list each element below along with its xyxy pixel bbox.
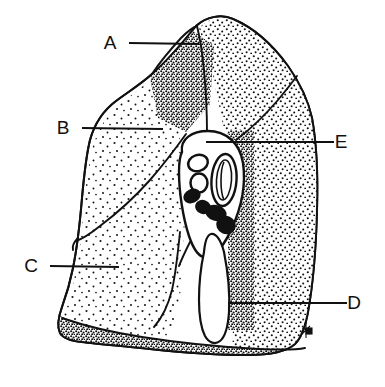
label-c: C	[24, 255, 38, 276]
lung-diagram-canvas: A B C D E	[0, 0, 385, 387]
lung-diagram-figure: A B C D E	[0, 0, 385, 387]
leader-line-a	[129, 43, 199, 44]
label-a: A	[104, 32, 117, 53]
leader-line-c	[50, 266, 119, 267]
label-d: D	[347, 292, 361, 313]
leader-line-b	[82, 128, 163, 129]
bronchus-lumen-detail	[221, 162, 224, 200]
label-e: E	[335, 131, 348, 152]
label-b: B	[57, 117, 70, 138]
